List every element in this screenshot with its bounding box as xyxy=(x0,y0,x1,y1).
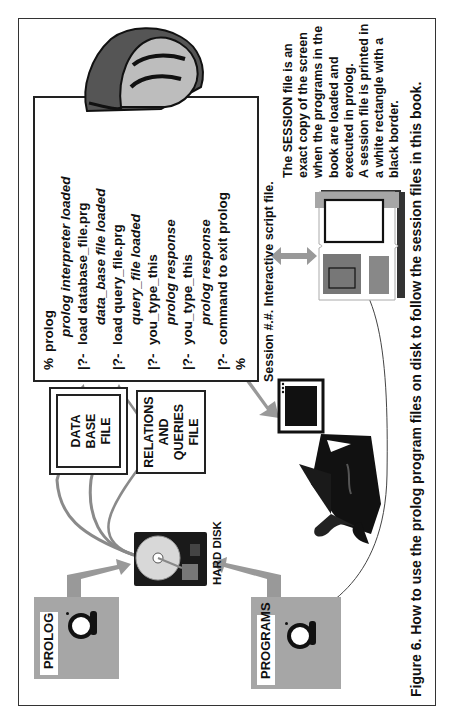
terminal-line: prolog response xyxy=(198,219,214,325)
terminal-line: load database_file.prg xyxy=(75,202,91,345)
open-book-icon xyxy=(315,188,407,302)
session-book-double-arrow xyxy=(271,247,317,265)
prolog-floppy-label: PROLOG xyxy=(40,612,58,675)
database-file-line: FILE xyxy=(99,389,114,473)
session-terminal-box: % prolog prolog interpreter loaded |?- l… xyxy=(33,96,259,382)
floppy-slot-icon xyxy=(309,621,316,645)
prolog-floppy: PROLOG xyxy=(34,597,119,679)
relations-file-line: QUERIES xyxy=(172,392,187,472)
session-description: The SESSION file is an exact copy of the… xyxy=(281,24,403,178)
hard-disk-icon xyxy=(134,532,207,586)
terminal-line: command to exit prolog xyxy=(215,192,231,345)
database-file-box: DATA BASE FILE xyxy=(49,387,128,475)
terminal-line: data_base file loaded xyxy=(93,188,109,325)
relations-file-line: FILE xyxy=(187,392,202,472)
terminal-line: query_file loaded xyxy=(128,214,144,325)
figure-frame: PROLOG PROGRAMS HARD DISK DATA BASE FILE… xyxy=(18,18,436,706)
terminal-line: you_type_this xyxy=(145,254,161,345)
prolog-to-disk-arrow xyxy=(67,559,131,597)
relations-queries-file-box: RELATIONS AND QUERIES FILE xyxy=(136,390,206,474)
terminal-line: prolog response xyxy=(163,219,179,325)
floppy-slot-icon xyxy=(90,611,97,635)
database-file-line: BASE xyxy=(84,389,99,473)
programs-floppy: PROGRAMS xyxy=(251,597,341,689)
relations-file-line: AND xyxy=(157,392,172,472)
person-at-computer-icon xyxy=(271,368,383,544)
figure-caption: Figure 6. How to use the prolog program … xyxy=(408,82,424,697)
relations-file-line: RELATIONS xyxy=(142,392,157,472)
hard-disk-label: HARD DISK xyxy=(211,521,223,585)
programs-floppy-label: PROGRAMS xyxy=(257,615,275,685)
terminal-line: prolog xyxy=(41,310,57,352)
session-caption: Session #.#. Interactive script file. xyxy=(262,181,276,382)
terminal-line: load query_file.prg xyxy=(110,224,126,345)
database-file-line: DATA xyxy=(69,389,84,473)
terminal-line: you_type_this xyxy=(180,254,196,345)
pointing-hand-icon xyxy=(81,23,211,117)
terminal-line: prolog interpreter loaded xyxy=(58,176,74,337)
